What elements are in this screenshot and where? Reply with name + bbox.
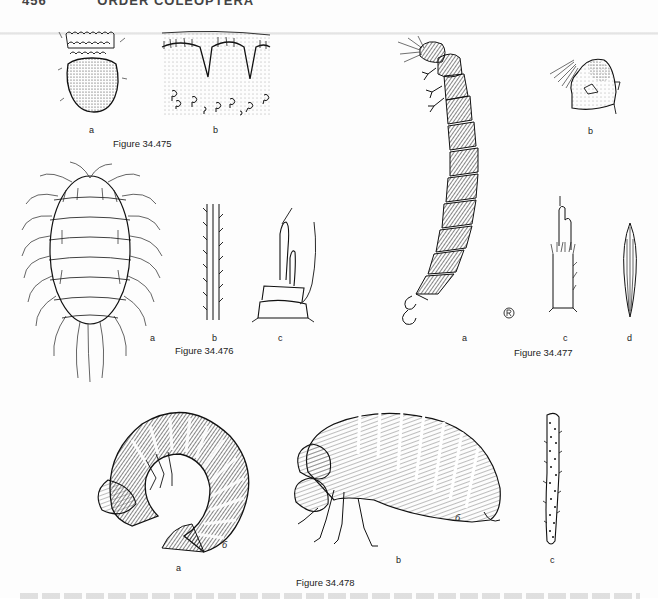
figure-34-476-label-b: b bbox=[212, 333, 217, 343]
figure-34-476-label-c: c bbox=[278, 333, 283, 343]
figure-34-478-b-drawing bbox=[294, 400, 506, 548]
figure-34-478-a-drawing bbox=[92, 396, 262, 556]
figure-34-478-label-c: c bbox=[550, 555, 555, 565]
figure-34-478-signature-b: б bbox=[455, 513, 460, 523]
figure-34-478-caption: Figure 34.478 bbox=[296, 577, 355, 588]
figure-34-478-label-b: b bbox=[396, 555, 401, 565]
figure-34-476-c-drawing bbox=[252, 208, 322, 320]
truncated-body-text bbox=[20, 593, 640, 599]
figure-34-475-a-drawing bbox=[58, 28, 130, 118]
figure-34-475-label-a: a bbox=[89, 125, 94, 135]
figure-34-476-b-drawing bbox=[201, 204, 225, 320]
page-number: 456 bbox=[22, 0, 47, 8]
figure-34-477-c-drawing bbox=[549, 196, 579, 318]
figure-34-477-label-d: d bbox=[627, 333, 632, 343]
figure-34-477-label-a: a bbox=[462, 333, 467, 343]
figure-34-476-label-a: a bbox=[150, 333, 155, 343]
figure-34-477-caption: Figure 34.477 bbox=[514, 347, 573, 358]
figure-34-475-caption: Figure 34.475 bbox=[113, 138, 172, 149]
figure-34-476-a-drawing bbox=[22, 160, 162, 382]
figure-34-477-label-b: b bbox=[588, 126, 593, 136]
figure-34-478-label-a: a bbox=[176, 563, 181, 573]
figure-34-475-b-drawing bbox=[160, 33, 272, 118]
artist-monogram-icon bbox=[503, 307, 515, 319]
figure-34-477-d-drawing bbox=[622, 223, 638, 317]
figure-34-478-signature-a: б bbox=[222, 540, 227, 550]
running-head: 456 ORDER COLEOPTERA bbox=[22, 0, 254, 8]
figure-34-477-b-drawing bbox=[548, 52, 620, 120]
figure-34-477-a-drawing bbox=[398, 38, 508, 328]
running-title: ORDER COLEOPTERA bbox=[97, 0, 254, 8]
figure-34-476-caption: Figure 34.476 bbox=[175, 345, 234, 356]
figure-34-477-label-c: c bbox=[563, 333, 568, 343]
figure-34-478-c-drawing bbox=[541, 413, 563, 547]
figure-34-475-label-b: b bbox=[213, 125, 218, 135]
